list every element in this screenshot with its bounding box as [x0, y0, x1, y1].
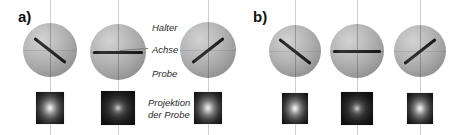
- label-projektion-line2: der Probe: [148, 109, 218, 121]
- figure-canvas: a)b)HalterAchseProbeProjektionder Probe: [0, 0, 471, 135]
- sample-holder-sphere-b-1: [269, 25, 321, 77]
- panel-letter-a: a): [18, 8, 31, 25]
- projection-square-b-1: [282, 93, 308, 124]
- sample-holder-sphere-b-2: [330, 24, 384, 78]
- sample-rod-b-2: [333, 50, 381, 53]
- projection-square-a-2: [101, 91, 135, 125]
- label-projektion-der-probe: Projektionder Probe: [148, 97, 218, 121]
- projection-square-a-1: [36, 92, 64, 124]
- sample-rod-a-2: [93, 51, 143, 54]
- projection-square-b-2: [341, 92, 373, 125]
- label-halter: Halter: [152, 22, 177, 34]
- projection-square-b-3: [407, 93, 433, 124]
- sample-holder-sphere-a-3: [180, 22, 236, 78]
- label-achse: Achse: [152, 44, 178, 56]
- panel-letter-b: b): [253, 8, 267, 25]
- label-projektion-line1: Projektion: [148, 97, 218, 109]
- sample-holder-sphere-a-1: [23, 23, 77, 77]
- sample-holder-sphere-b-3: [394, 25, 446, 77]
- sample-holder-sphere-a-2: [90, 24, 146, 80]
- label-probe: Probe: [152, 68, 177, 80]
